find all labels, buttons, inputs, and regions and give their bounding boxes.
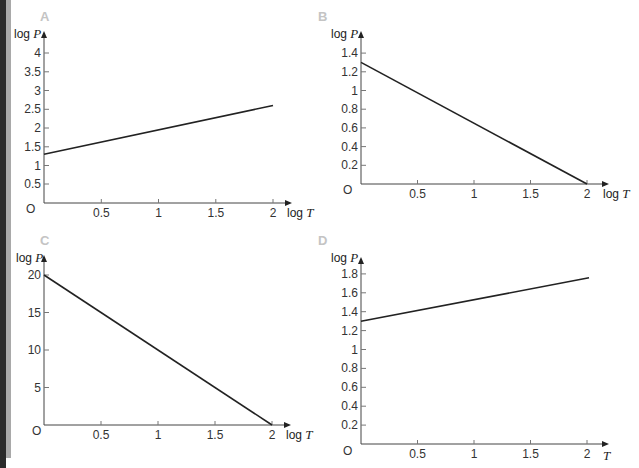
y-axis-arrow-icon [41,31,47,38]
x-ticks-c: 0.5 1 1.5 2 [93,421,276,442]
y-axis-title-var: P [34,250,43,265]
y-axis-title-var: P [349,26,358,41]
data-line-b [361,62,587,184]
x-axis-title-d: T [603,448,611,463]
y-tick-label: 1.5 [24,140,41,154]
y-axis-title-prefix: log [331,27,347,41]
x-axis-title-prefix: log [603,187,619,201]
y-tick-label: 0.6 [341,121,358,135]
y-tick-label: 10 [28,343,42,357]
x-tick-label: 2 [584,447,591,461]
x-tick-label: 1.5 [522,447,539,461]
x-tick-label: 2 [584,187,591,201]
y-axis-title-prefix: log [331,251,347,265]
y-tick-label: 15 [28,306,42,320]
data-line-c [44,275,272,425]
y-ticks-d: 0.2 0.4 0.6 0.8 1 1.2 1.4 1.6 1.8 [341,267,366,432]
x-tick-label: 0.5 [409,187,426,201]
y-tick-label: 2 [34,121,41,135]
y-axis-title-var: P [32,26,41,41]
x-axis-arrow-icon [602,441,609,447]
panel-label-b: B [318,9,327,24]
x-tick-label: 0.5 [409,447,426,461]
origin-label-a: O [26,202,35,216]
y-tick-label: 1.4 [341,305,358,319]
panel-label-c: C [40,233,50,248]
origin-label-c: O [32,424,41,438]
y-axis-title-prefix: log [14,27,30,41]
x-tick-label: 0.5 [93,428,110,442]
x-tick-label: 1.5 [207,428,224,442]
y-ticks-b: 0.2 0.4 0.6 0.8 1 1.2 1.4 [341,46,366,172]
x-tick-label: 1 [155,428,162,442]
chart-panel-d: D log P O 0.2 0.4 0.6 0.8 1 1.2 1.4 1.6 … [318,233,611,463]
x-axis-title-a: log T [287,205,314,220]
y-axis-title-prefix: log [16,251,32,265]
y-tick-label: 0.2 [341,158,358,172]
y-tick-label: 4 [34,46,41,60]
y-axis-title-var: P [349,250,358,265]
x-tick-label: 1.5 [207,206,224,220]
y-tick-label: 0.4 [341,140,358,154]
y-tick-label: 1 [34,159,41,173]
y-tick-label: 0.5 [24,177,41,191]
y-tick-label: 1.4 [341,46,358,60]
y-axis-title-d: log P [331,250,358,265]
y-tick-label: 0.8 [341,102,358,116]
x-tick-label: 1.5 [522,187,539,201]
x-axis-title-var: T [306,205,314,220]
y-tick-label: 5 [34,381,41,395]
y-axis-arrow-icon [358,31,364,38]
y-tick-label: 2.5 [24,102,41,116]
panel-label-a: A [40,9,50,24]
data-line-a [44,106,273,155]
y-tick-label: 1.2 [341,65,358,79]
y-axis-title-c: log P [16,250,43,265]
x-axis-title-var: T [622,186,630,201]
y-tick-label: 3 [34,84,41,98]
y-axis-title-b: log P [331,26,358,41]
x-ticks-b: 0.5 1 1.5 2 [409,180,591,201]
y-tick-label: 1.8 [341,267,358,281]
y-tick-label: 1.2 [341,324,358,338]
y-tick-label: 1 [351,84,358,98]
origin-label-b: O [343,183,352,197]
y-tick-label: 1.6 [341,286,358,300]
y-tick-label: 1 [351,343,358,357]
chart-panel-b: B log P O 0.2 0.4 0.6 0.8 1 1.2 1.4 0.5 … [318,9,630,201]
y-tick-label: 0.4 [341,399,358,413]
x-tick-label: 1 [471,187,478,201]
y-tick-label: 0.8 [341,361,358,375]
y-axis-title-a: log P [14,26,41,41]
x-axis-title-prefix: log [286,428,302,442]
y-tick-label: 20 [28,268,42,282]
x-ticks-d: 0.5 1 1.5 2 [409,440,591,461]
y-axis-arrow-icon [358,257,364,264]
x-tick-label: 2 [270,206,277,220]
panel-label-d: D [318,233,327,248]
x-axis-title-b: log T [603,186,630,201]
x-axis-title-var: T [305,427,313,442]
data-line-d [361,278,589,321]
y-ticks-a: 0.5 1 1.5 2 2.5 3 3.5 4 [24,46,49,191]
x-tick-label: 1 [155,206,162,220]
chart-panel-c: C log P O 5 10 15 20 0.5 1 1.5 2 log T [16,233,313,442]
x-axis-title-c: log T [286,427,313,442]
x-tick-label: 2 [269,428,276,442]
y-tick-label: 3.5 [24,65,41,79]
y-ticks-c: 5 10 15 20 [28,268,49,395]
x-axis-title-var: T [603,448,611,463]
y-tick-label: 0.2 [341,418,358,432]
y-tick-label: 0.6 [341,380,358,394]
origin-label-d: O [343,444,352,458]
x-tick-label: 1 [471,447,478,461]
x-ticks-a: 0.5 1 1.5 2 [93,199,277,220]
charts-canvas: A log P O 0.5 1 1.5 2 2.5 3 3.5 4 0.5 1 … [0,0,639,468]
x-tick-label: 0.5 [93,206,110,220]
chart-panel-a: A log P O 0.5 1 1.5 2 2.5 3 3.5 4 0.5 1 … [14,9,314,220]
x-axis-title-prefix: log [287,206,303,220]
